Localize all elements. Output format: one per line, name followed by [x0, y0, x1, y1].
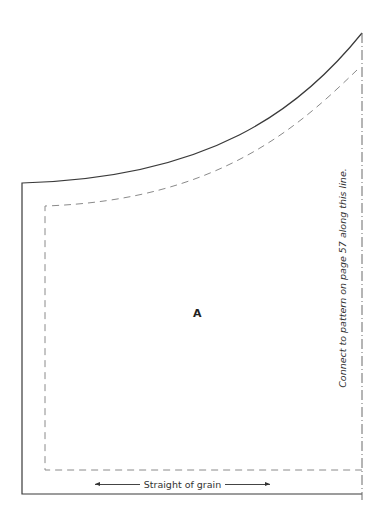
- join-instruction: Connect to pattern on page 57 along this…: [337, 168, 348, 388]
- pattern-sheet: A Straight of grain Connect to pattern o…: [0, 0, 386, 523]
- piece-label: A: [193, 307, 202, 320]
- cut-line: [22, 33, 362, 494]
- grainline-label: Straight of grain: [140, 479, 226, 490]
- arrow-left-icon: [95, 484, 140, 485]
- grainline: Straight of grain: [95, 477, 270, 491]
- pattern-piece-drawing: [0, 0, 386, 523]
- seam-line: [45, 70, 362, 470]
- arrow-right-icon: [225, 484, 270, 485]
